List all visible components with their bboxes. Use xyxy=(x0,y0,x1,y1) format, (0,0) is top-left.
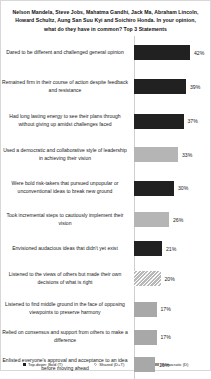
bar[interactable] xyxy=(134,330,157,345)
category-label: Were bold risk-takers that pursued unpop… xyxy=(1,180,134,196)
legend-item-shared[interactable]: Shared (D+T) xyxy=(94,362,125,367)
bar-value-label: 33% xyxy=(182,152,192,158)
bar[interactable] xyxy=(134,212,169,227)
bar-row: Were bold risk-takers that pursued unpop… xyxy=(1,171,210,205)
category-label: Had long lasting energy to see their pla… xyxy=(1,113,134,129)
legend-item-top-down-bold[interactable]: Top-down: Bold (T) xyxy=(23,362,63,367)
legend-item-democratic[interactable]: Democratic (D) xyxy=(155,362,188,367)
bar-zone: 26% xyxy=(134,205,210,234)
bar-row: Used a democratic and collaborative styl… xyxy=(1,138,210,171)
category-label: Envisioned audacious ideas that didn't y… xyxy=(1,245,134,253)
category-label: Listened to find middle ground in the fa… xyxy=(1,301,134,317)
legend-label: Democratic (D) xyxy=(161,362,189,367)
bar[interactable] xyxy=(134,114,184,129)
bar-zone: 42% xyxy=(134,36,210,69)
bar[interactable] xyxy=(134,302,157,317)
bar-row: Listened to find middle ground in the fa… xyxy=(1,294,210,324)
category-label: Remained firm in their course of action … xyxy=(1,79,134,95)
category-label: Took incremental steps to cautiously imp… xyxy=(1,212,134,228)
category-label: Listened to the views of others but made… xyxy=(1,271,134,287)
bar-value-label: 39% xyxy=(190,84,200,90)
bar-value-label: 17% xyxy=(161,306,171,312)
plot-area: Dared to be different and challenged gen… xyxy=(1,36,210,379)
bar-row: Remained firm in their course of action … xyxy=(1,69,210,104)
legend-swatch-icon xyxy=(23,363,27,367)
chart-title: Nelson Mandela, Steve Jobs, Mahatma Gand… xyxy=(1,1,210,36)
category-label: Relied on consensus and support from oth… xyxy=(1,329,134,345)
bar-zone: 39% xyxy=(134,69,210,104)
bar[interactable] xyxy=(134,271,161,286)
bar-row: Envisioned audacious ideas that didn't y… xyxy=(1,234,210,263)
bar-value-label: 20% xyxy=(165,276,175,282)
category-label: Dared to be different and challenged gen… xyxy=(1,49,134,57)
bar-value-label: 26% xyxy=(173,217,183,223)
bar-zone: 17% xyxy=(134,294,210,324)
bar-row: Dared to be different and challenged gen… xyxy=(1,36,210,69)
bar-value-label: 21% xyxy=(166,246,176,252)
category-label: Used a democratic and collaborative styl… xyxy=(1,147,134,163)
bar-row: Took incremental steps to cautiously imp… xyxy=(1,205,210,234)
bar[interactable] xyxy=(134,147,178,162)
bar-zone: 37% xyxy=(134,104,210,138)
legend-label: Shared (D+T) xyxy=(99,362,124,367)
bar[interactable] xyxy=(134,181,174,196)
bar-value-label: 30% xyxy=(178,185,188,191)
bar-zone: 30% xyxy=(134,171,210,205)
bar-row: Relied on consensus and support from oth… xyxy=(1,324,210,350)
legend-swatch-icon xyxy=(155,363,159,367)
bar-row: Listened to the views of others but made… xyxy=(1,263,210,294)
legend-label: Top-down: Bold (T) xyxy=(28,362,63,367)
bar[interactable] xyxy=(134,241,162,256)
chart-legend: Top-down: Bold (T) Shared (D+T) Democrat… xyxy=(1,362,210,367)
bar-zone: 33% xyxy=(134,138,210,171)
legend-swatch-icon xyxy=(94,363,98,367)
bar-value-label: 37% xyxy=(188,118,198,124)
bar-row: Had long lasting energy to see their pla… xyxy=(1,104,210,138)
bar-zone: 17% xyxy=(134,324,210,350)
bar-value-label: 17% xyxy=(161,334,171,340)
bar-zone: 20% xyxy=(134,263,210,294)
bar-zone: 21% xyxy=(134,234,210,263)
bar-value-label: 42% xyxy=(194,50,204,56)
bar[interactable] xyxy=(134,79,186,94)
bar[interactable] xyxy=(134,45,190,60)
